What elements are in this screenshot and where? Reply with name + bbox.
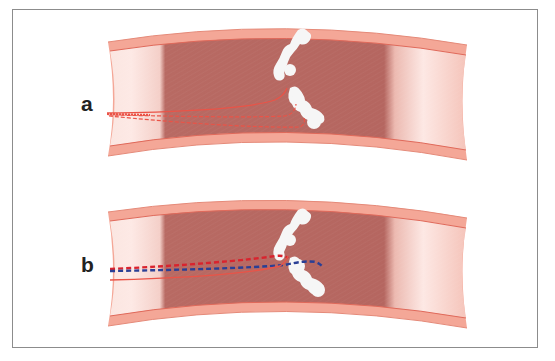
vessel-diagram — [0, 0, 555, 361]
panel-label-a: a — [81, 93, 93, 114]
panel-label-b: b — [81, 254, 94, 275]
